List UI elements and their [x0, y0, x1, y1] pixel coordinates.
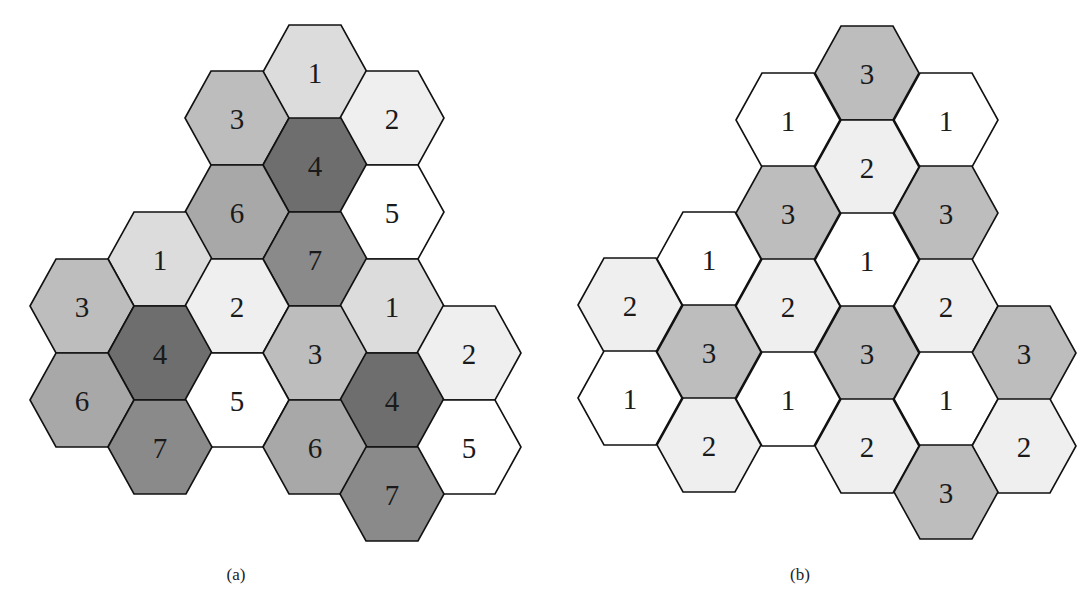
cell-channel-label: 1: [153, 244, 168, 276]
cell-channel-label: 2: [939, 291, 954, 323]
panel-b-cell-grid: 311233112223331112223: [578, 26, 1076, 539]
cell-channel-label: 2: [860, 431, 875, 463]
cell-channel-label: 2: [230, 291, 245, 323]
cell-channel-label: 4: [385, 385, 400, 417]
panel-b-caption: (b): [790, 565, 810, 585]
cell-channel-label: 2: [860, 152, 875, 184]
panel-a-cell-grid: 132465173214326547657: [30, 25, 521, 541]
cell-channel-label: 4: [308, 150, 323, 182]
cell-channel-label: 1: [939, 384, 954, 416]
figure-canvas: 132465173214326547657 311233112223331112…: [0, 0, 1089, 600]
cell-channel-label: 7: [308, 244, 323, 276]
panel-a-caption: (a): [227, 565, 246, 585]
cell-channel-label: 3: [860, 338, 875, 370]
cell-channel-label: 3: [939, 477, 954, 509]
cell-channel-label: 3: [939, 198, 954, 230]
cell-channel-label: 3: [702, 337, 717, 369]
cell-channel-label: 3: [308, 338, 323, 370]
cell-channel-label: 2: [781, 291, 796, 323]
cell-channel-label: 6: [75, 385, 90, 417]
cell-channel-label: 1: [860, 245, 875, 277]
cell-channel-label: 2: [462, 338, 477, 370]
cell-channel-label: 1: [623, 383, 638, 415]
cell-channel-label: 2: [1017, 431, 1032, 463]
cell-channel-label: 1: [308, 57, 323, 89]
cell-channel-label: 2: [385, 103, 400, 135]
cell-channel-label: 1: [781, 105, 796, 137]
cell-channel-label: 3: [781, 198, 796, 230]
cell-channel-label: 5: [230, 385, 245, 417]
cell-channel-label: 1: [385, 291, 400, 323]
cell-channel-label: 6: [308, 432, 323, 464]
cell-channel-label: 1: [702, 244, 717, 276]
cell-channel-label: 2: [702, 430, 717, 462]
cell-channel-label: 3: [860, 58, 875, 90]
cell-channel-label: 4: [153, 338, 168, 370]
cell-channel-label: 1: [781, 384, 796, 416]
cell-channel-label: 3: [230, 103, 245, 135]
cell-channel-label: 3: [75, 291, 90, 323]
hex-grid-figure: 132465173214326547657 311233112223331112…: [0, 0, 1089, 600]
cell-channel-label: 5: [462, 432, 477, 464]
cell-channel-label: 6: [230, 197, 245, 229]
cell-channel-label: 7: [153, 432, 168, 464]
cell-channel-label: 7: [385, 479, 400, 511]
cell-channel-label: 2: [623, 290, 638, 322]
cell-channel-label: 5: [385, 197, 400, 229]
cell-channel-label: 3: [1017, 338, 1032, 370]
cell-channel-label: 1: [939, 105, 954, 137]
